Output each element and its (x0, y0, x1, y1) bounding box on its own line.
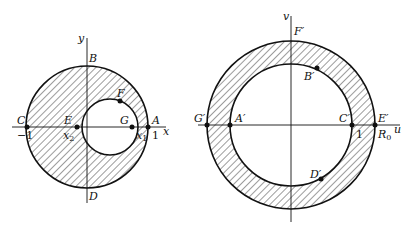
right-diagram: v u F′ B′ D′ G′ A′ C′ E′ 1 R0 (194, 10, 401, 222)
left-diagram: y x B D C A E G F −1 1 x1 x2 (12, 32, 170, 203)
label-E: E (63, 114, 72, 127)
label-C: C (17, 114, 26, 127)
label-D-prime: D′ (309, 168, 322, 181)
u-axis-label: u (394, 123, 401, 136)
point-A (146, 125, 151, 130)
point-G (130, 125, 135, 130)
conformal-map-figure: y x B D C A E G F −1 1 x1 x2 v u F′ B′ D… (0, 0, 409, 231)
y-axis-label: y (77, 32, 85, 45)
label-B-prime: B′ (303, 70, 315, 83)
label-F-prime: F′ (293, 25, 305, 38)
tick-one-w: 1 (356, 128, 363, 141)
label-A: A (151, 114, 160, 127)
tick-R0: R0 (377, 128, 391, 142)
v-axis-label: v (283, 10, 290, 23)
point-C-prime (350, 123, 355, 128)
point-B-prime (315, 66, 320, 71)
label-C-prime: C′ (339, 112, 350, 125)
label-E-prime: E′ (377, 112, 389, 125)
tick-minus-one: −1 (17, 129, 33, 142)
label-F: F (116, 87, 125, 100)
label-G: G (120, 114, 129, 127)
label-G-prime: G′ (194, 112, 206, 125)
tick-one: 1 (152, 129, 159, 142)
label-A-prime: A′ (234, 112, 246, 125)
label-D: D (88, 190, 98, 203)
x-axis-label: x (163, 125, 170, 138)
point-A-prime (228, 123, 233, 128)
point-E-prime (373, 123, 378, 128)
label-B: B (88, 52, 97, 65)
point-E (75, 125, 80, 130)
